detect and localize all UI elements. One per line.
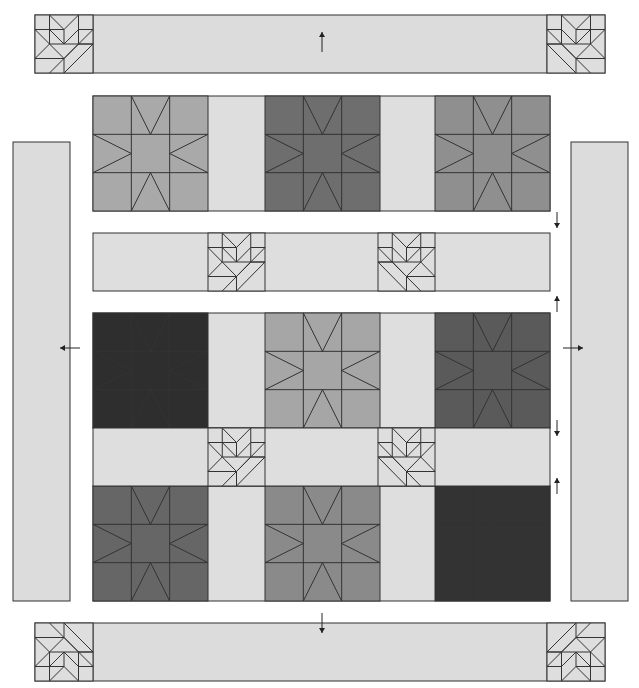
star-block-r3-c2 xyxy=(265,486,380,601)
cornerstone-block-r1-c2 xyxy=(378,233,435,291)
quilt-diagram xyxy=(0,0,639,688)
sashing-row-1 xyxy=(93,233,550,291)
star-block-r1-c2 xyxy=(265,96,380,211)
star-block-r1-c1 xyxy=(93,96,208,211)
bottom-border xyxy=(35,623,605,681)
star-block-r2-c3 xyxy=(435,313,550,428)
right-border xyxy=(571,142,628,601)
sashing-row-2 xyxy=(93,428,550,486)
top-border-left-corner-block xyxy=(35,15,93,73)
cornerstone-block-r2-c2 xyxy=(378,428,435,486)
left-border xyxy=(13,142,70,601)
up-arrow-icon xyxy=(554,478,560,494)
down-arrow-icon xyxy=(554,212,560,228)
star-block-r1-c3 xyxy=(435,96,550,211)
star-block-r3-c1 xyxy=(93,486,208,601)
top-border-right-corner-block xyxy=(547,15,605,73)
star-block-r2-c1 xyxy=(93,313,208,428)
up-arrow-icon xyxy=(554,296,560,312)
quilt-assembly-svg xyxy=(0,0,639,688)
cornerstone-block-r1-c1 xyxy=(208,233,265,291)
cornerstone-block-r2-c1 xyxy=(208,428,265,486)
bottom-border-right-corner-block xyxy=(547,623,605,681)
star-block-r3-c3 xyxy=(435,486,550,601)
star-block-r2-c2 xyxy=(265,313,380,428)
bottom-border-left-corner-block xyxy=(35,623,93,681)
down-arrow-icon xyxy=(554,420,560,436)
top-border xyxy=(35,15,605,73)
